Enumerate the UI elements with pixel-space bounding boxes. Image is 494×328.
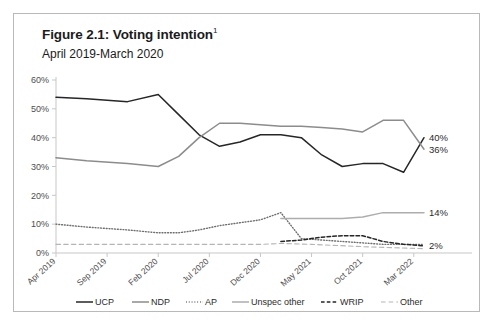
figure-container: Figure 2.1: Voting intention1 April 2019… xyxy=(13,13,480,312)
chart-legend: UCPNDPAPUnspec otherWRIPOther xyxy=(76,297,423,307)
legend-label: WRIP xyxy=(340,297,364,307)
end-value-label-unspec-other: 14% xyxy=(429,207,449,218)
legend-label: Other xyxy=(400,297,423,307)
legend-item-other[interactable]: Other xyxy=(381,297,423,307)
y-tick-label: 30% xyxy=(31,162,49,172)
legend-label: AP xyxy=(205,297,217,307)
y-axis: 0%10%20%30%40%50%60% xyxy=(31,75,56,258)
x-tick-label: Feb 2020 xyxy=(126,256,160,288)
y-tick-label: 0% xyxy=(36,248,49,258)
x-tick-label: Mar 2022 xyxy=(382,256,416,288)
end-value-label-ndp: 36% xyxy=(429,144,449,155)
y-tick-label: 20% xyxy=(31,191,49,201)
x-tick-label: Apr 2019 xyxy=(25,256,58,287)
x-tick-label: Oct 2021 xyxy=(332,256,365,287)
y-tick-label: 10% xyxy=(31,219,49,229)
legend-label: NDP xyxy=(151,297,170,307)
end-value-label-ucp: 40% xyxy=(429,132,449,143)
end-labels-layer: 40%36%14%2% xyxy=(429,132,449,251)
legend-item-ndp[interactable]: NDP xyxy=(132,297,170,307)
x-axis: Apr 2019Sep 2019Feb 2020Jul 2020Dec 2020… xyxy=(25,253,472,288)
legend-item-ap[interactable]: AP xyxy=(186,297,217,307)
legend-label: Unspec other xyxy=(251,297,305,307)
series-line-ndp xyxy=(56,120,424,166)
series-line-ucp xyxy=(56,94,424,172)
series-line-unspec-other xyxy=(281,213,424,219)
x-tick-label: Dec 2020 xyxy=(228,256,262,288)
series-line-ap xyxy=(56,213,424,245)
series-layer xyxy=(56,94,424,248)
y-tick-label: 50% xyxy=(31,104,49,114)
series-line-other xyxy=(56,243,424,248)
end-value-label-wrip: 2% xyxy=(429,240,443,251)
x-tick-label: May 2021 xyxy=(278,256,313,289)
y-tick-label: 60% xyxy=(31,75,49,85)
legend-item-ucp[interactable]: UCP xyxy=(76,297,114,307)
x-tick-label: Jul 2020 xyxy=(180,256,211,285)
legend-item-unspec-other[interactable]: Unspec other xyxy=(232,297,305,307)
legend-item-wrip[interactable]: WRIP xyxy=(321,297,364,307)
voting-intention-line-chart: 0%10%20%30%40%50%60% Apr 2019Sep 2019Feb… xyxy=(14,14,481,313)
legend-label: UCP xyxy=(95,297,114,307)
y-tick-label: 40% xyxy=(31,133,49,143)
x-tick-label: Sep 2019 xyxy=(75,256,109,288)
